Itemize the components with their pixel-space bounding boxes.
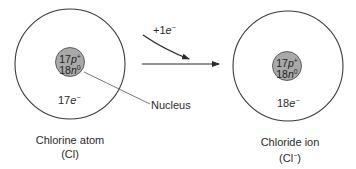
ion-electron-count: 18e−: [277, 95, 299, 109]
nucleus-leader-line: [84, 72, 150, 104]
nucleus-callout-label: Nucleus: [151, 99, 191, 111]
electron-gain-arrow: [143, 35, 189, 59]
atom-caption-symbol: (Cl): [30, 148, 110, 160]
ion-caption-name: Chloride ion: [250, 136, 330, 148]
electron-gain-label: +1e−: [153, 22, 176, 36]
atom-caption: Chlorine atom (Cl): [30, 134, 110, 160]
atom-electron-count: 17e−: [58, 92, 80, 106]
ion-caption: Chloride ion (Cl−): [250, 136, 330, 164]
ion-nucleus-neutrons: 18n0: [272, 66, 302, 80]
chlorine-ionization-diagram: 17p+ 18n0 17e− 17p+ 18n0 18e− +1e− Nucle…: [0, 0, 356, 169]
atom-nucleus-neutrons: 18n0: [55, 62, 85, 76]
atom-caption-name: Chlorine atom: [30, 134, 110, 146]
ion-caption-symbol: (Cl−): [250, 150, 330, 164]
